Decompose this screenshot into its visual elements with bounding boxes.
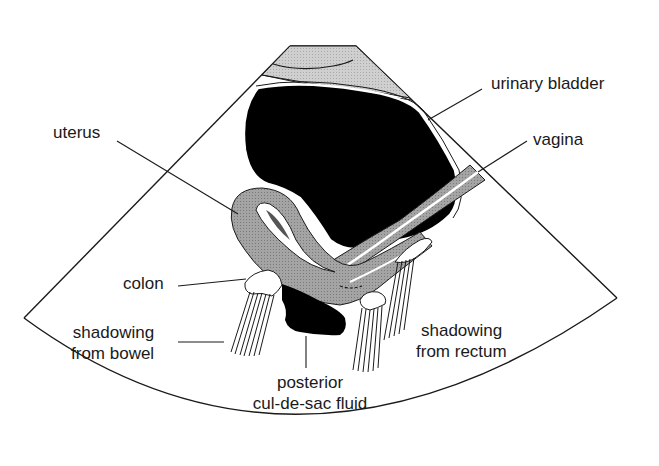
label-posterior-line2: cul-de-sac fluid	[235, 393, 385, 414]
label-posterior-line1: posterior	[235, 372, 385, 393]
label-urinary-bladder: urinary bladder	[491, 73, 604, 94]
label-uterus: uterus	[53, 122, 100, 143]
label-shadowing-rectum-line1: shadowing	[416, 320, 507, 341]
label-shadowing-from-rectum: shadowing from rectum	[416, 320, 507, 362]
label-posterior-cul-de-sac-fluid: posterior cul-de-sac fluid	[235, 372, 385, 414]
label-shadowing-bowel-line2: from bowel	[71, 343, 154, 364]
label-shadowing-from-bowel: shadowing from bowel	[71, 322, 154, 364]
bowel-shadowing	[231, 292, 274, 356]
colon	[245, 270, 282, 296]
label-shadowing-rectum-line2: from rectum	[416, 341, 507, 362]
label-colon: colon	[123, 273, 164, 294]
label-shadowing-bowel-line1: shadowing	[71, 322, 154, 343]
label-vagina: vagina	[533, 129, 583, 150]
